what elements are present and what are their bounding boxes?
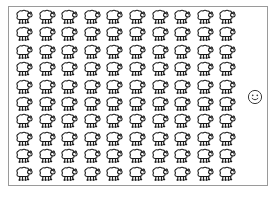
sheep-icon bbox=[58, 79, 79, 95]
sheep-icon bbox=[216, 148, 237, 164]
sheep-icon bbox=[216, 9, 237, 25]
sheep-icon bbox=[194, 131, 215, 147]
sheep-icon bbox=[81, 148, 102, 164]
sheep-icon bbox=[36, 148, 57, 164]
sheep-icon bbox=[58, 148, 79, 164]
sheep-icon bbox=[194, 79, 215, 95]
sheep-icon bbox=[58, 96, 79, 112]
sheep-icon bbox=[81, 166, 102, 182]
sheep-icon bbox=[81, 9, 102, 25]
sheep-icon bbox=[103, 131, 124, 147]
sheep-row bbox=[13, 9, 241, 26]
sheep-icon bbox=[36, 26, 57, 42]
sheep-icon bbox=[194, 166, 215, 182]
sheep-icon bbox=[36, 96, 57, 112]
sheep-icon bbox=[171, 96, 192, 112]
sheep-icon bbox=[36, 44, 57, 60]
sheep-icon bbox=[103, 166, 124, 182]
sheep-icon bbox=[216, 131, 237, 147]
sheep-icon bbox=[216, 96, 237, 112]
sheep-icon bbox=[171, 61, 192, 77]
sheep-icon bbox=[194, 96, 215, 112]
sheep-icon bbox=[126, 148, 147, 164]
sheep-icon bbox=[58, 113, 79, 129]
sheep-icon bbox=[103, 9, 124, 25]
sheep-icon bbox=[194, 26, 215, 42]
sheep-icon bbox=[13, 148, 34, 164]
sheep-icon bbox=[13, 61, 34, 77]
sheep-icon bbox=[149, 26, 170, 42]
sheep-icon bbox=[13, 131, 34, 147]
sheep-icon bbox=[103, 79, 124, 95]
sheep-icon bbox=[171, 148, 192, 164]
sheep-icon bbox=[103, 113, 124, 129]
sheep-row bbox=[13, 44, 241, 61]
sheep-icon bbox=[36, 61, 57, 77]
sheep-icon bbox=[58, 26, 79, 42]
sheep-icon bbox=[216, 61, 237, 77]
sheep-icon bbox=[216, 79, 237, 95]
sheep-icon bbox=[149, 148, 170, 164]
sheep-row bbox=[13, 26, 241, 43]
sheep-icon bbox=[171, 113, 192, 129]
sheep-icon bbox=[81, 26, 102, 42]
image-canvas bbox=[0, 0, 279, 201]
sheep-icon bbox=[126, 96, 147, 112]
sheep-icon bbox=[13, 44, 34, 60]
sheep-icon bbox=[171, 9, 192, 25]
sheep-icon bbox=[13, 113, 34, 129]
sheep-icon bbox=[13, 26, 34, 42]
sheep-icon bbox=[216, 166, 237, 182]
sheep-icon bbox=[171, 79, 192, 95]
sheep-icon bbox=[36, 131, 57, 147]
sheep-icon bbox=[194, 113, 215, 129]
sheep-icon bbox=[58, 61, 79, 77]
sheep-icon bbox=[216, 113, 237, 129]
sheep-icon bbox=[81, 96, 102, 112]
sheep-icon bbox=[149, 131, 170, 147]
sheep-icon bbox=[81, 113, 102, 129]
sheep-icon bbox=[13, 79, 34, 95]
sheep-icon bbox=[126, 44, 147, 60]
sheep-icon bbox=[13, 9, 34, 25]
sheep-icon bbox=[103, 96, 124, 112]
sheep-icon bbox=[126, 113, 147, 129]
sheep-icon bbox=[171, 44, 192, 60]
sheep-icon bbox=[81, 61, 102, 77]
sheep-icon bbox=[171, 166, 192, 182]
sheep-icon bbox=[149, 44, 170, 60]
sheep-icon bbox=[103, 148, 124, 164]
sheep-icon bbox=[58, 9, 79, 25]
sheep-icon bbox=[171, 26, 192, 42]
sheep-icon bbox=[58, 44, 79, 60]
sheep-icon bbox=[103, 44, 124, 60]
sheep-icon bbox=[126, 26, 147, 42]
sheep-icon bbox=[194, 61, 215, 77]
sheep-icon bbox=[126, 166, 147, 182]
sheep-row bbox=[13, 131, 241, 148]
sheep-row bbox=[13, 113, 241, 130]
sheep-icon bbox=[216, 44, 237, 60]
sheep-grid bbox=[13, 9, 241, 185]
sheep-icon bbox=[194, 44, 215, 60]
sheep-icon bbox=[36, 9, 57, 25]
sheep-icon bbox=[36, 166, 57, 182]
sheep-icon bbox=[216, 26, 237, 42]
sheep-icon bbox=[13, 96, 34, 112]
sheep-icon bbox=[126, 61, 147, 77]
sheep-row bbox=[13, 79, 241, 96]
sheep-icon bbox=[81, 44, 102, 60]
sheep-icon bbox=[58, 131, 79, 147]
sheep-icon bbox=[194, 9, 215, 25]
sheep-icon bbox=[194, 148, 215, 164]
sheep-row bbox=[13, 61, 241, 78]
sheep-icon bbox=[171, 131, 192, 147]
sheep-row bbox=[13, 166, 241, 183]
sheep-icon bbox=[81, 131, 102, 147]
sheep-icon bbox=[36, 113, 57, 129]
sheep-row bbox=[13, 96, 241, 113]
sheep-icon bbox=[58, 166, 79, 182]
sheep-icon bbox=[149, 96, 170, 112]
sheep-icon bbox=[149, 166, 170, 182]
sheep-icon bbox=[103, 61, 124, 77]
